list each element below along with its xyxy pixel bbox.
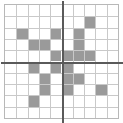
grid-cell-empty: [16, 95, 27, 106]
grid-cell-empty: [5, 5, 16, 16]
grid-cell-empty: [39, 95, 50, 106]
grid-cell-empty: [5, 73, 16, 84]
grid-cell-empty: [84, 28, 95, 39]
grid-cell-empty: [28, 16, 39, 27]
grid-cell-empty: [95, 50, 106, 61]
grid-cell-empty: [95, 107, 106, 118]
grid-cell-empty: [39, 28, 50, 39]
grid-cell-empty: [84, 84, 95, 95]
grid-cell-empty: [107, 28, 118, 39]
grid-cell-empty: [39, 5, 50, 16]
grid-cell-empty: [50, 73, 61, 84]
grid-cell-empty: [5, 50, 16, 61]
grid-cell-filled: [28, 95, 39, 106]
grid-cell-empty: [5, 16, 16, 27]
grid-cell-empty: [16, 5, 27, 16]
grid-cell-filled: [39, 39, 50, 50]
grid-cell-empty: [5, 84, 16, 95]
grid-cell-filled: [16, 28, 27, 39]
grid-cell-empty: [95, 95, 106, 106]
grid-cell-filled: [28, 39, 39, 50]
grid-cell-empty: [16, 73, 27, 84]
grid-cell-empty: [95, 16, 106, 27]
grid-frame: [4, 4, 119, 119]
grid-cell-empty: [95, 39, 106, 50]
grid-cell-empty: [73, 95, 84, 106]
grid-cell-filled: [84, 16, 95, 27]
grid-cell-empty: [107, 95, 118, 106]
grid-cell-empty: [39, 107, 50, 118]
grid-cell-empty: [28, 5, 39, 16]
grid-cell-filled: [73, 39, 84, 50]
grid-cell-filled: [73, 50, 84, 61]
grid-cell-empty: [50, 84, 61, 95]
grid-cell-filled: [50, 28, 61, 39]
grid-cell-empty: [16, 16, 27, 27]
grid-cell-filled: [39, 84, 50, 95]
grid-cell-empty: [28, 107, 39, 118]
grid-cell-empty: [16, 39, 27, 50]
grid-cell-empty: [5, 95, 16, 106]
grid-cell-filled: [50, 50, 61, 61]
grid-cell-empty: [28, 28, 39, 39]
grid-cell-empty: [107, 50, 118, 61]
grid-cell-empty: [39, 50, 50, 61]
grid-cell-empty: [95, 73, 106, 84]
grid-cell-empty: [84, 73, 95, 84]
grid-cell-empty: [39, 16, 50, 27]
grid-cell-filled: [73, 73, 84, 84]
grid-cell-empty: [107, 107, 118, 118]
grid-cell-empty: [16, 84, 27, 95]
grid-cell-empty: [5, 39, 16, 50]
grid-cell-empty: [84, 95, 95, 106]
grid-cell-empty: [28, 73, 39, 84]
grid-cell-empty: [107, 73, 118, 84]
grid-cell-empty: [73, 107, 84, 118]
grid-cell-empty: [16, 107, 27, 118]
grid-cell-empty: [50, 95, 61, 106]
grid-cell-empty: [73, 16, 84, 27]
grid-cell-empty: [95, 28, 106, 39]
grid-cell-empty: [84, 5, 95, 16]
grid-cell-empty: [16, 50, 27, 61]
grid-cell-empty: [50, 16, 61, 27]
grid-cell-empty: [107, 84, 118, 95]
grid-cell-filled: [73, 28, 84, 39]
grid-cell-empty: [84, 39, 95, 50]
grid-cell-empty: [50, 39, 61, 50]
grid-cell-empty: [73, 5, 84, 16]
grid-cell-empty: [28, 84, 39, 95]
axis-line-horizontal: [1, 62, 123, 64]
grid-cell-empty: [50, 107, 61, 118]
grid-cell-empty: [107, 5, 118, 16]
grid-cell-empty: [5, 28, 16, 39]
grid-cell-filled: [84, 50, 95, 61]
grid-cell-empty: [95, 5, 106, 16]
grid-cell-empty: [107, 16, 118, 27]
grid-cell-filled: [39, 73, 50, 84]
grid-cell-empty: [73, 84, 84, 95]
grid-cell-empty: [84, 107, 95, 118]
grid-cell-filled: [95, 84, 106, 95]
grid-cell-empty: [28, 50, 39, 61]
pixel-grid-figure: [0, 0, 123, 123]
grid-cell-empty: [5, 107, 16, 118]
grid-cell-empty: [107, 39, 118, 50]
grid-cell-empty: [50, 5, 61, 16]
